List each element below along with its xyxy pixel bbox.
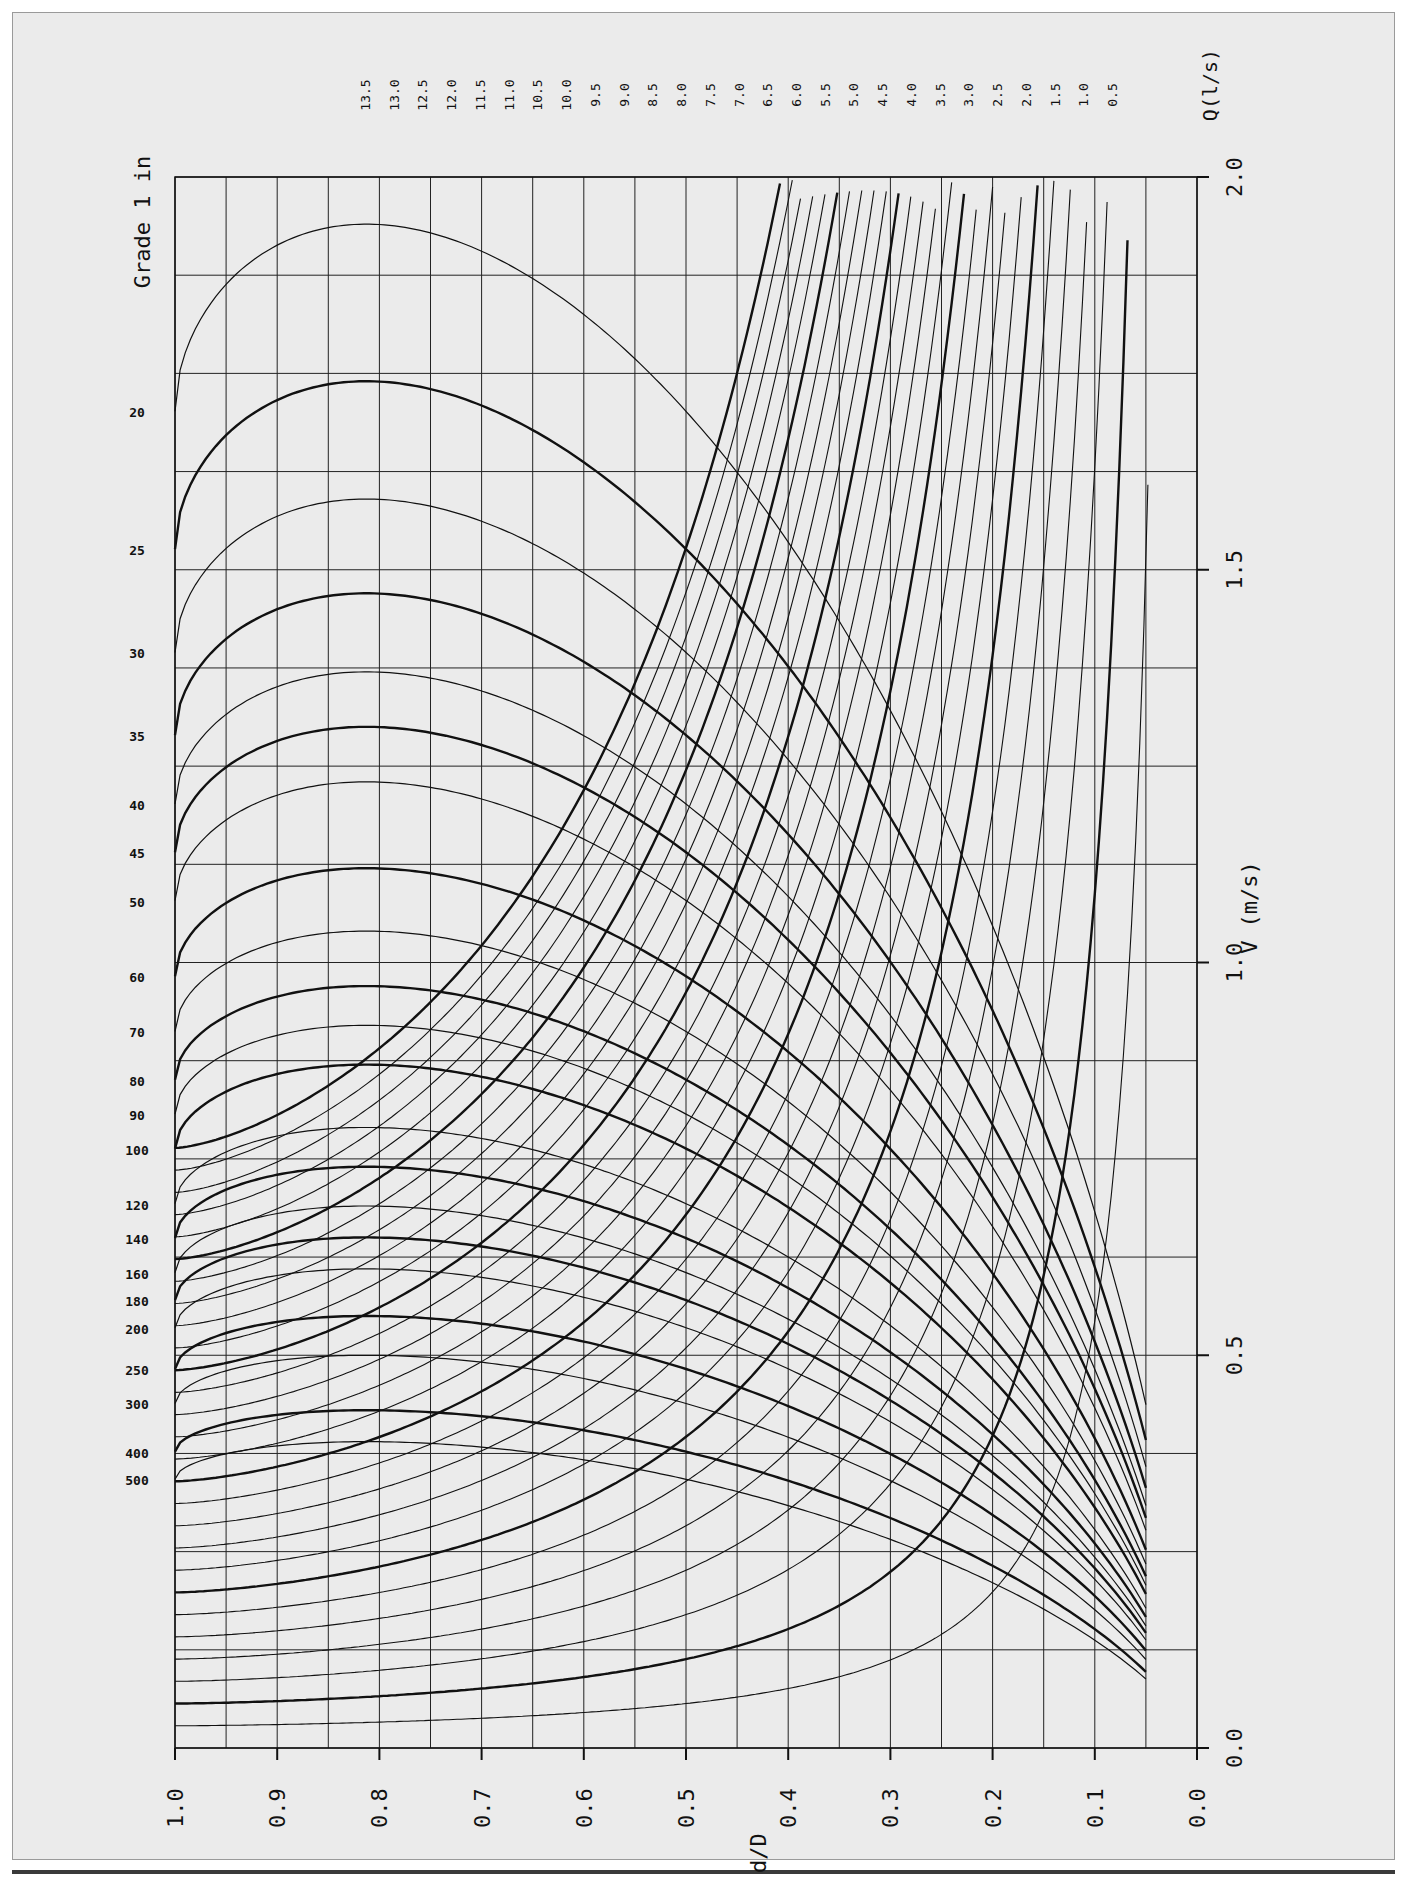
grade-value: 140 <box>125 1232 149 1247</box>
grade-value: 20 <box>129 405 145 420</box>
x-tick-label: 0.8 <box>367 1788 392 1828</box>
discharge-value: 10.5 <box>530 79 545 110</box>
grade-label: Grade 1 in <box>130 156 155 288</box>
discharge-curves <box>175 180 1148 1726</box>
x-axis-title: d/D <box>746 1833 771 1873</box>
grade-value: 200 <box>125 1322 149 1337</box>
grade-value: 30 <box>129 646 145 661</box>
discharge-value: 3.5 <box>933 83 948 106</box>
discharge-value: 8.0 <box>674 83 689 106</box>
grade-value: 100 <box>125 1143 149 1158</box>
discharge-value: 9.5 <box>588 83 603 106</box>
x-tick-label: 0.5 <box>674 1788 699 1828</box>
grade-value: 180 <box>125 1294 149 1309</box>
discharge-value: 0.5 <box>1105 83 1120 106</box>
grade-value: 80 <box>129 1074 145 1089</box>
x-tick-label: 0.7 <box>470 1788 495 1828</box>
x-tick-label: 1.0 <box>163 1788 188 1828</box>
grade-value: 40 <box>129 798 145 813</box>
grade-value: 25 <box>129 543 145 558</box>
discharge-value: 13.5 <box>358 79 373 110</box>
y-tick-label: 1.5 <box>1222 550 1247 590</box>
x-tick-label: 0.6 <box>572 1788 597 1828</box>
x-tick-label: 0.2 <box>981 1788 1006 1828</box>
grade-value: 300 <box>125 1397 149 1412</box>
y-tick-label: 0.0 <box>1222 1728 1247 1768</box>
grade-value: 50 <box>129 895 145 910</box>
discharge-value: 5.5 <box>818 83 833 106</box>
x-tick-label: 0.3 <box>878 1788 903 1828</box>
y-tick-label: 2.0 <box>1222 157 1247 197</box>
discharge-value: 8.5 <box>645 83 660 106</box>
grade-value: 400 <box>125 1446 149 1461</box>
grade-value: 60 <box>129 970 145 985</box>
discharge-value: 11.5 <box>473 79 488 110</box>
grade-value: 120 <box>125 1198 149 1213</box>
y-axis-title: V (m/s) <box>1237 861 1262 954</box>
discharge-value: 9.0 <box>617 83 632 106</box>
grade-value: 500 <box>125 1473 149 1488</box>
pipe-flow-chart: 1.00.90.80.70.60.50.40.30.20.10.0d/D0.00… <box>0 0 1405 1901</box>
discharge-value: 2.0 <box>1019 83 1034 106</box>
y-tick-label: 0.5 <box>1222 1335 1247 1375</box>
x-tick-label: 0.9 <box>265 1788 290 1828</box>
discharge-value: 12.0 <box>444 79 459 110</box>
discharge-value: 6.5 <box>760 83 775 106</box>
grade-value: 35 <box>129 729 145 744</box>
discharge-value: 5.0 <box>846 83 861 106</box>
axis-labels: 1.00.90.80.70.60.50.40.30.20.10.0d/D0.00… <box>125 49 1262 1873</box>
discharge-label: Q(l/s) <box>1198 49 1222 121</box>
discharge-value: 3.0 <box>961 83 976 106</box>
discharge-value: 1.5 <box>1048 83 1063 106</box>
discharge-value: 6.0 <box>789 83 804 106</box>
x-tick-label: 0.0 <box>1185 1788 1210 1828</box>
x-tick-label: 0.1 <box>1083 1788 1108 1828</box>
discharge-value: 7.5 <box>703 83 718 106</box>
discharge-value: 11.0 <box>502 79 517 110</box>
discharge-value: 12.5 <box>415 79 430 110</box>
grade-value: 45 <box>129 846 145 861</box>
grade-value: 70 <box>129 1025 145 1040</box>
discharge-value: 4.0 <box>904 83 919 106</box>
discharge-value: 2.5 <box>990 83 1005 106</box>
discharge-value: 13.0 <box>387 79 402 110</box>
discharge-value: 4.5 <box>875 83 890 106</box>
discharge-value: 10.0 <box>559 79 574 110</box>
x-tick-label: 0.4 <box>776 1788 801 1828</box>
grade-value: 250 <box>125 1363 149 1378</box>
grade-value: 90 <box>129 1108 145 1123</box>
grade-value: 160 <box>125 1267 149 1282</box>
discharge-value: 1.0 <box>1076 83 1091 106</box>
grade-curves <box>175 224 1146 1679</box>
discharge-value: 7.0 <box>732 83 747 106</box>
